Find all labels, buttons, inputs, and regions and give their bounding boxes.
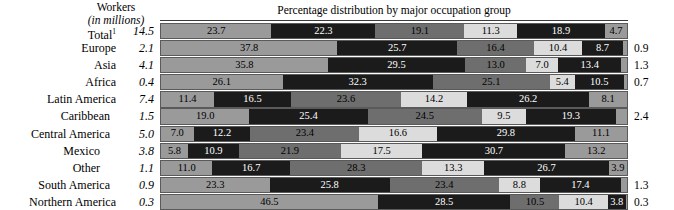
- row-workers-value: 0.3: [118, 195, 154, 210]
- stacked-bar: 19.025.424.59.519.3: [160, 108, 628, 124]
- bar-segment: 30.7: [422, 144, 565, 158]
- bar-segment: [616, 109, 627, 123]
- row-label-latin-america: Latin America: [0, 92, 116, 107]
- bar-segment: 28.5: [378, 195, 511, 209]
- bar-segment-value: 30.7: [485, 146, 503, 157]
- bar-segment-value: 17.4: [571, 180, 589, 191]
- bar-segment-value: 4.7: [609, 26, 622, 37]
- bar-segment-value: 23.4: [435, 180, 453, 191]
- bar-segment-value: 28.3: [347, 163, 365, 174]
- bar-segment: 10.4: [534, 41, 583, 55]
- bar-segment-value: 25.1: [482, 77, 500, 88]
- stacked-bar: 5.810.921.917.530.713.2: [160, 143, 628, 159]
- bar-segment-value: 19.1: [411, 26, 429, 37]
- bar-segment: 26.1: [161, 75, 283, 89]
- bar-segment: [623, 41, 627, 55]
- bar-segment: 23.6: [291, 92, 401, 106]
- bar-segment-value: 46.5: [260, 197, 278, 208]
- bar-segment: 18.9: [517, 24, 605, 38]
- bar-segment-value: 8.8: [513, 180, 526, 191]
- row-label-asia: Asia: [0, 58, 116, 73]
- table-row: Total114.523.722.319.111.318.94.7: [0, 23, 674, 40]
- bar-segment-value: 13.4: [581, 60, 599, 71]
- bar-segment-value: 12.2: [213, 128, 231, 139]
- bar-segment: 12.2: [194, 127, 251, 141]
- footnote-marker: 1: [112, 27, 116, 36]
- bar-segment: 10.9: [188, 144, 239, 158]
- bar-segment: 25.4: [249, 109, 367, 123]
- bar-segment-value: 24.5: [416, 111, 434, 122]
- row-workers-value: 5.0: [118, 127, 154, 142]
- stacked-bar: 11.016.728.313.326.73.9: [160, 160, 628, 176]
- bar-segment-value: 7.0: [536, 60, 549, 71]
- bar-segment-value: 11.0: [178, 163, 196, 174]
- bar-segment: 13.0: [465, 58, 526, 72]
- bar-segment-value: 10.5: [590, 77, 608, 88]
- bar-segment-value: 3.9: [611, 163, 624, 174]
- bar-segment-value: 11.3: [482, 26, 500, 37]
- table-row: Asia4.135.829.513.07.013.41.3: [0, 57, 674, 74]
- bar-segment-value: 25.4: [299, 111, 317, 122]
- bar-segment: 11.4: [161, 92, 214, 106]
- bar-segment-value: 10.5: [526, 197, 544, 208]
- table-row: Mexico3.85.810.921.917.530.713.2: [0, 143, 674, 160]
- bar-segment: 13.4: [558, 58, 620, 72]
- bar-segment-value: 32.3: [348, 77, 366, 88]
- bar-segment-value: 26.2: [519, 94, 537, 105]
- bar-segment-value: 13.2: [587, 146, 605, 157]
- bar-segment-value: 22.3: [314, 26, 332, 37]
- stacked-bar: 23.722.319.111.318.94.7: [160, 23, 628, 39]
- bar-segment-value: 5.4: [556, 77, 569, 88]
- bar-segment-value: 10.4: [574, 197, 592, 208]
- bar-segment: 28.3: [290, 161, 422, 175]
- bar-segment: 23.3: [161, 178, 270, 192]
- bar-segment: [624, 75, 627, 89]
- bar-segment: 32.3: [283, 75, 433, 89]
- workers-header-line1: Workers: [78, 1, 154, 14]
- row-trailing-value: 1.3: [634, 178, 670, 193]
- row-workers-value: 0.4: [118, 75, 154, 90]
- bar-segment: 35.8: [161, 58, 328, 72]
- bar-segment: 11.0: [161, 161, 212, 175]
- bar-segment-value: 25.8: [320, 180, 338, 191]
- bar-segment-value: 9.5: [497, 111, 510, 122]
- bar-segment: [626, 195, 627, 209]
- bar-segment: 13.3: [422, 161, 484, 175]
- bar-segment: 16.4: [457, 41, 534, 55]
- bar-segment-value: 29.8: [497, 128, 515, 139]
- bar-segment-value: 10.9: [204, 146, 222, 157]
- bar-segment: 10.5: [575, 75, 624, 89]
- bar-segment: 16.7: [212, 161, 290, 175]
- bar-segment-value: 23.7: [207, 26, 225, 37]
- bar-segment-value: 23.3: [206, 180, 224, 191]
- bar-segment: 23.4: [390, 178, 499, 192]
- row-workers-value: 0.9: [118, 178, 154, 193]
- bar-segment-value: 19.3: [562, 111, 580, 122]
- bar-segment: 26.7: [484, 161, 609, 175]
- bar-segment: 19.3: [526, 109, 616, 123]
- row-trailing-value: 0.9: [634, 41, 670, 56]
- bar-segment: 19.1: [375, 24, 464, 38]
- title-underline-rule: [160, 20, 628, 21]
- row-label-south-america: South America: [0, 178, 110, 193]
- bar-segment-value: 17.5: [372, 146, 390, 157]
- bar-segment: 3.9: [609, 161, 627, 175]
- table-row: Central America5.07.012.223.416.629.811.…: [0, 126, 674, 143]
- stacked-bar: 23.325.823.48.817.4: [160, 177, 628, 193]
- bar-segment: 17.4: [540, 178, 621, 192]
- row-label-mexico: Mexico: [0, 144, 100, 159]
- stacked-bar: 35.829.513.07.013.4: [160, 57, 628, 73]
- table-row: Latin America7.411.416.523.614.226.28.1: [0, 91, 674, 108]
- bar-segment-value: 26.7: [537, 163, 555, 174]
- bar-segment: 11.1: [575, 127, 627, 141]
- bar-segment-value: 8.1: [602, 94, 615, 105]
- bar-segment-value: 25.7: [388, 43, 406, 54]
- stacked-bar: 7.012.223.416.629.811.1: [160, 126, 628, 142]
- bar-segment: 11.3: [464, 24, 517, 38]
- bar-segment-value: 28.5: [435, 197, 453, 208]
- bar-segment-value: 21.9: [281, 146, 299, 157]
- bar-segment: 24.5: [368, 109, 482, 123]
- bar-segment: 26.2: [467, 92, 589, 106]
- bar-segment-value: 3.8: [610, 197, 623, 208]
- bar-segment: 23.7: [161, 24, 271, 38]
